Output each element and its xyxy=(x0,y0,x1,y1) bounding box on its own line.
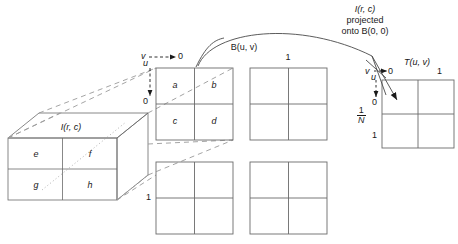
cube-cell-g: g xyxy=(33,180,38,190)
ray-mid-right xyxy=(148,140,233,144)
cube-cell-h: h xyxy=(87,180,92,190)
block-transform-figure: I(r, c) e f g h a b c d v 0 u 0 B(u, v) … xyxy=(0,0,458,244)
cube-cell-f: f xyxy=(89,149,92,159)
transform-u-axis-label: u xyxy=(371,72,376,82)
fraction-one-over-n: 1 N xyxy=(357,106,366,125)
grid-bottom-right xyxy=(250,162,327,234)
projection-curve-stub xyxy=(196,38,224,67)
grid-top-right-corner-label: 1 xyxy=(285,52,290,62)
block-cell-b: b xyxy=(211,80,216,90)
projection-caption-line3: onto B(0, 0) xyxy=(341,26,388,37)
transform-u-axis-value: 0 xyxy=(372,97,377,107)
transform-u-axis-end: 1 xyxy=(372,130,377,140)
transform-label: T(u, v) xyxy=(404,57,430,67)
block-cell-d: d xyxy=(211,116,216,126)
ray-lower-right xyxy=(148,140,233,175)
transform-v-axis-end: 1 xyxy=(437,66,442,76)
block-label: B(u, v) xyxy=(231,42,258,52)
cube-label: I(r, c) xyxy=(61,122,82,132)
block-u-axis-value: 0 xyxy=(143,96,148,106)
perspective-rays xyxy=(8,68,233,200)
ray-top-left xyxy=(39,68,156,113)
fraction-denominator: N xyxy=(357,116,366,125)
block-cell-c: c xyxy=(173,116,178,126)
grid-block-front xyxy=(149,57,233,140)
projection-curve-top xyxy=(198,33,386,95)
transform-v-axis-label: v xyxy=(365,66,370,76)
grid-bottom-left-corner-label: 1 xyxy=(146,192,151,202)
projection-caption-line2: projected xyxy=(346,15,383,26)
cube-cell-e: e xyxy=(33,149,38,159)
grid-top-right xyxy=(250,68,327,140)
cube-depth-dotted xyxy=(42,122,126,190)
transform-v-axis-value: 0 xyxy=(388,66,393,76)
block-u-axis-label: u xyxy=(143,58,148,68)
cube-right-face xyxy=(117,113,148,200)
transform-u-axis-fraction: 1 N xyxy=(357,106,366,125)
ray-mid-upper-left xyxy=(8,68,156,138)
grid-transform xyxy=(374,71,454,148)
block-cell-a: a xyxy=(172,80,177,90)
projection-caption-line1: I(r, c) xyxy=(355,4,376,15)
ray-top-right xyxy=(148,68,233,113)
grid-bottom-left xyxy=(156,162,233,234)
block-v-axis-value: 0 xyxy=(178,51,183,61)
